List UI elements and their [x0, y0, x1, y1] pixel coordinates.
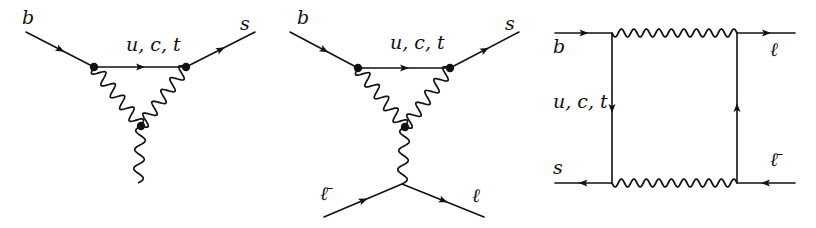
boson-line [398, 127, 409, 184]
vertex-dot-icon [182, 63, 190, 71]
boson-line [91, 67, 143, 126]
label-uct-loop-1: u, c, t [126, 35, 181, 54]
boson-line [612, 29, 737, 37]
boson-line [405, 67, 450, 128]
label-uct-loop-2: u, c, t [390, 33, 445, 52]
vertex-dot-icon [90, 63, 98, 71]
arrow-icon [55, 45, 66, 55]
vertex-dot-icon [137, 122, 145, 130]
boson-line [134, 126, 145, 183]
label-antilepton-3: ℓ̄ [770, 150, 778, 169]
arrow-icon [319, 45, 330, 55]
vertex-dot-icon [446, 64, 454, 72]
label-b-quark-2: b [297, 8, 309, 27]
label-lepton-3: ℓ [770, 40, 778, 59]
vertex-dot-icon [401, 123, 409, 131]
vertex-dot-icon [354, 64, 362, 72]
label-s-quark-2: s [505, 14, 515, 33]
label-s-quark-1: s [240, 14, 250, 33]
label-antilepton-2: ℓ̄ [320, 184, 328, 203]
boson-line [612, 179, 737, 187]
arrow-icon [215, 44, 226, 54]
label-uct-loop-3: u, c, t [553, 92, 608, 111]
boson-line [141, 66, 186, 127]
label-b-quark-1: b [22, 8, 34, 27]
arrow-icon [438, 196, 449, 206]
arrow-icon [358, 195, 369, 205]
label-lepton-2: ℓ [472, 186, 480, 205]
boson-line [355, 68, 407, 127]
arrow-icon [479, 45, 490, 55]
label-b-quark-3: b [553, 37, 565, 56]
label-s-quark-3: s [553, 158, 563, 177]
